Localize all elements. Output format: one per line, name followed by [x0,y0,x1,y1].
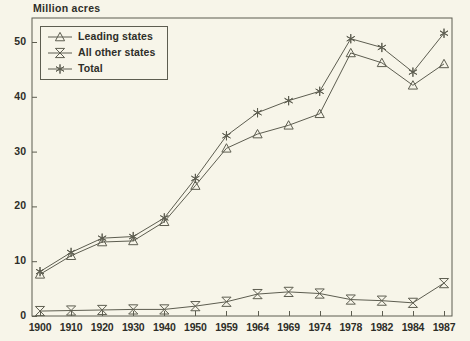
y-axis-tick-label: 0 [2,309,26,321]
chart-container: Million acres 50403020100 19001910192019… [0,0,470,341]
data-point-total [316,87,324,96]
data-point-all-other-states [439,279,448,288]
legend-label-leading-states: Leading states [78,30,153,42]
legend-label-total: Total [78,62,103,74]
y-axis-tick-label: 50 [2,35,26,47]
data-point-total [378,43,386,52]
legend-label-all-other-states: All other states [78,46,155,58]
data-point-total [254,108,262,117]
legend-marker-asterisk-icon [48,64,72,73]
series-line-all-other-states [40,283,444,311]
data-point-total [347,34,355,43]
legend-marker-bowtie-icon [48,48,72,57]
y-axis-tick-label: 10 [2,254,26,266]
data-point-total [285,96,293,105]
legend-marker-triangle-icon [48,32,72,40]
y-axis-tick-label: 20 [2,199,26,211]
y-axis-tick-label: 30 [2,145,26,157]
y-axis-tick-label: 40 [2,90,26,102]
x-axis-tick-label: 1987 [424,321,464,333]
